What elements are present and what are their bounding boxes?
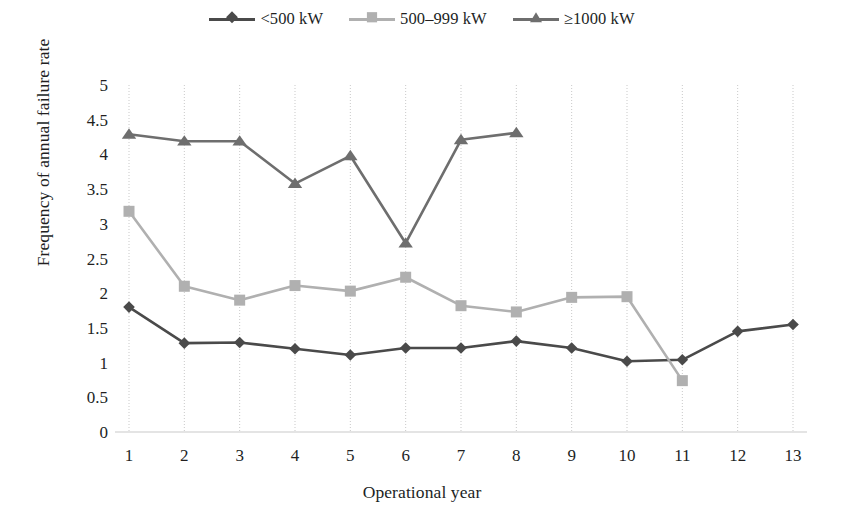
data-point-s1-x8 <box>511 306 522 317</box>
x-tick-12: 12 <box>729 447 746 464</box>
y-tick-2.5: 2.5 <box>58 250 108 267</box>
data-point-s0-x11 <box>677 354 689 366</box>
data-point-s0-x13 <box>787 319 799 331</box>
x-tick-13: 13 <box>785 447 802 464</box>
y-tick-4: 4 <box>58 146 108 163</box>
x-axis-title: Operational year <box>0 482 844 503</box>
y-tick-0.5: 0.5 <box>58 389 108 406</box>
data-point-s1-x6 <box>400 272 411 283</box>
data-point-s0-x8 <box>511 335 523 347</box>
data-point-s1-x11 <box>677 375 688 386</box>
data-point-s2-x6 <box>398 237 412 247</box>
data-point-s1-x9 <box>566 292 577 303</box>
x-tick-8: 8 <box>512 447 521 464</box>
y-tick-1: 1 <box>58 354 108 371</box>
y-tick-4.5: 4.5 <box>58 111 108 128</box>
data-point-s1-x1 <box>124 206 135 217</box>
x-tick-9: 9 <box>567 447 576 464</box>
y-tick-2: 2 <box>58 285 108 302</box>
y-tick-3: 3 <box>58 215 108 232</box>
series-line-2 <box>129 133 516 243</box>
y-tick-3.5: 3.5 <box>58 181 108 198</box>
x-tick-3: 3 <box>235 447 244 464</box>
data-point-s1-x2 <box>179 281 190 292</box>
data-point-s0-x7 <box>455 342 467 354</box>
data-point-s1-x3 <box>234 295 245 306</box>
x-tick-7: 7 <box>457 447 466 464</box>
data-point-s1-x4 <box>290 280 301 291</box>
x-tick-6: 6 <box>401 447 410 464</box>
data-point-s0-x3 <box>234 337 246 349</box>
data-point-s1-x5 <box>345 286 356 297</box>
y-tick-1.5: 1.5 <box>58 319 108 336</box>
data-point-s0-x5 <box>345 349 357 361</box>
data-point-s1-x10 <box>622 291 633 302</box>
x-tick-10: 10 <box>619 447 636 464</box>
data-point-s1-x7 <box>456 300 467 311</box>
data-point-s0-x12 <box>732 326 744 338</box>
data-point-s0-x6 <box>400 342 412 354</box>
x-tick-1: 1 <box>125 447 134 464</box>
y-tick-0: 0 <box>58 424 108 441</box>
x-tick-4: 4 <box>291 447 300 464</box>
y-axis-title: Frequency of annual failure rate <box>33 0 54 308</box>
data-point-s2-x1 <box>122 128 136 138</box>
data-point-s0-x9 <box>566 342 578 354</box>
x-tick-2: 2 <box>180 447 189 464</box>
x-tick-11: 11 <box>674 447 690 464</box>
data-point-s2-x5 <box>343 150 357 160</box>
data-point-s0-x10 <box>621 355 633 367</box>
data-point-s0-x4 <box>289 343 301 355</box>
y-tick-5: 5 <box>58 77 108 94</box>
x-tick-5: 5 <box>346 447 355 464</box>
failure-rate-line-chart: <500 kW 500–999 kW ≥1000 kW Frequency of <box>0 0 844 527</box>
data-point-s2-x8 <box>509 127 523 137</box>
